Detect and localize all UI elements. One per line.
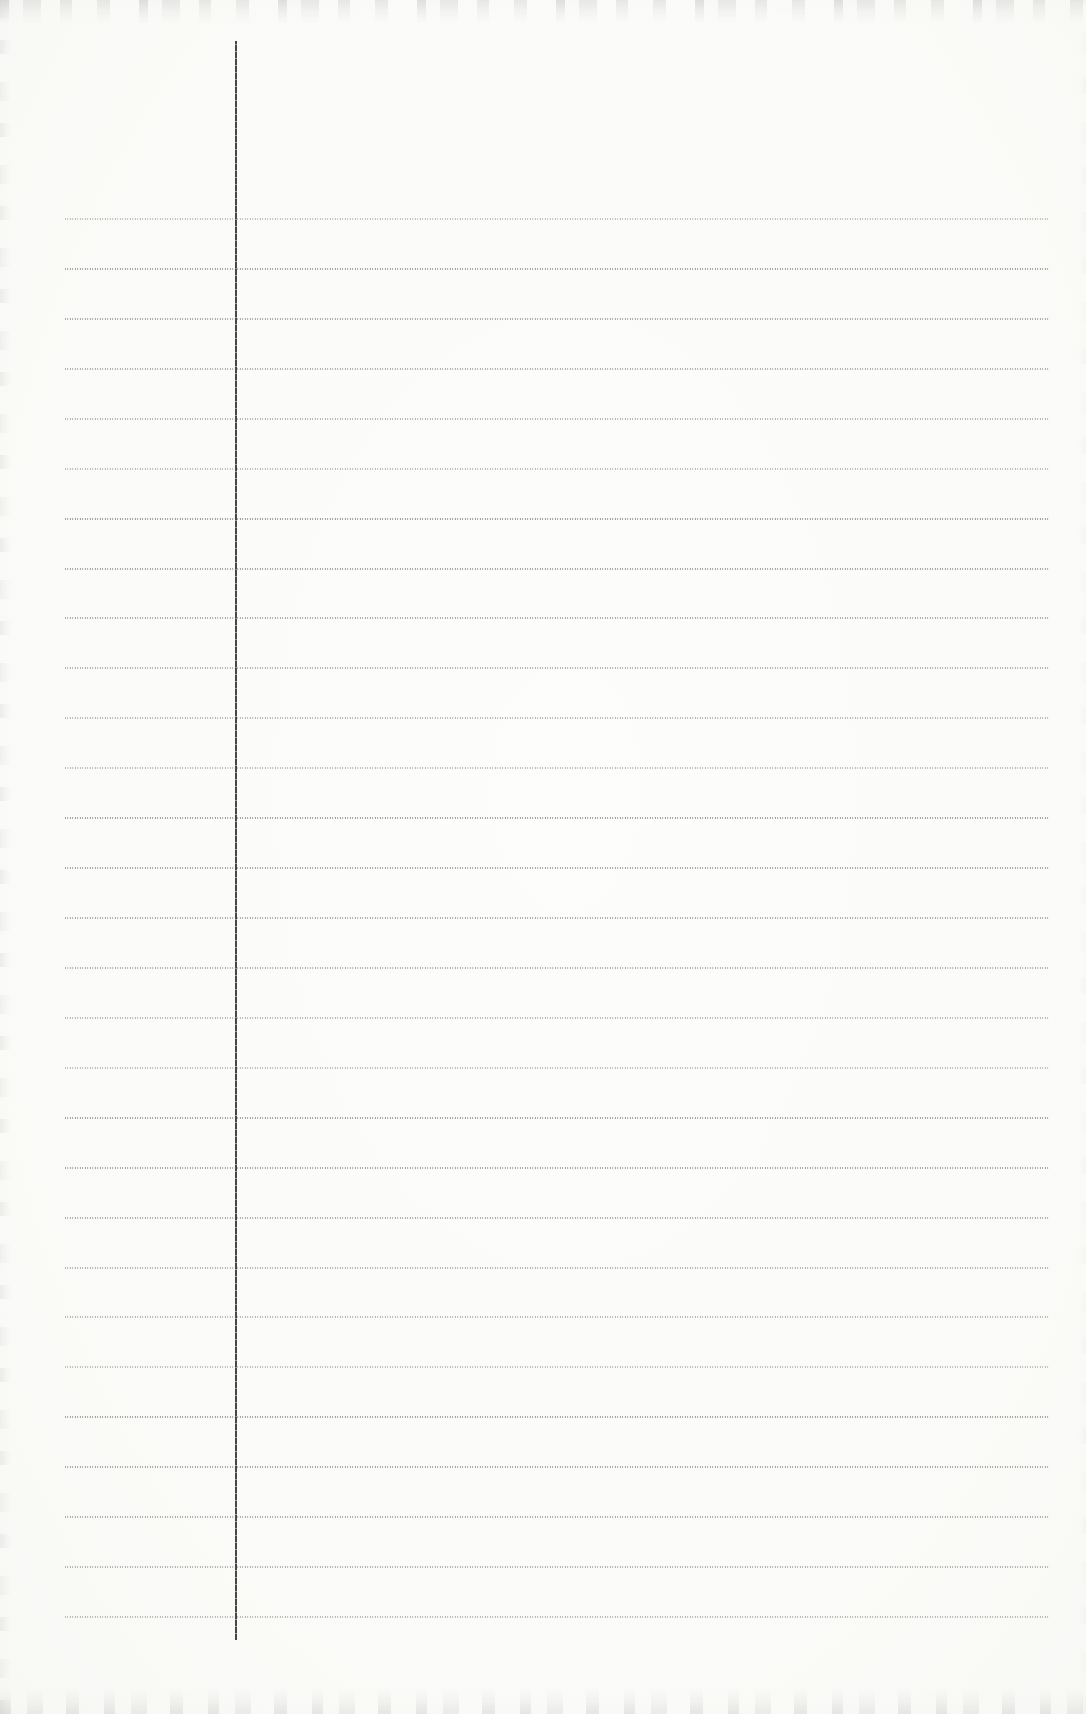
- ruled-line: [65, 1117, 1049, 1119]
- margin-line: [235, 41, 237, 1640]
- ruled-line: [65, 617, 1049, 619]
- ruled-line: [65, 1067, 1049, 1069]
- notebook-page: [0, 0, 1086, 1714]
- ruled-line: [65, 967, 1049, 969]
- ruled-line: [65, 1516, 1049, 1518]
- ruled-line: [65, 917, 1049, 919]
- ruled-line: [65, 1017, 1049, 1019]
- ruled-line: [65, 1616, 1049, 1618]
- ruled-line: [65, 268, 1049, 270]
- ruled-line: [65, 1366, 1049, 1368]
- ruled-line: [65, 867, 1049, 869]
- ruled-line: [65, 1466, 1049, 1468]
- ruled-line: [65, 1217, 1049, 1219]
- ruled-lines: [0, 0, 1086, 1714]
- ruled-line: [65, 767, 1049, 769]
- ruled-line: [65, 817, 1049, 819]
- ruled-line: [65, 318, 1049, 320]
- ruled-line: [65, 418, 1049, 420]
- ruled-line: [65, 568, 1049, 570]
- ruled-line: [65, 468, 1049, 470]
- ruled-line: [65, 667, 1049, 669]
- ruled-line: [65, 1566, 1049, 1568]
- ruled-line: [65, 1416, 1049, 1418]
- ruled-line: [65, 717, 1049, 719]
- ruled-line: [65, 1316, 1049, 1318]
- ruled-line: [65, 368, 1049, 370]
- ruled-line: [65, 518, 1049, 520]
- ruled-line: [65, 1167, 1049, 1169]
- ruled-line: [65, 218, 1049, 220]
- ruled-line: [65, 1267, 1049, 1269]
